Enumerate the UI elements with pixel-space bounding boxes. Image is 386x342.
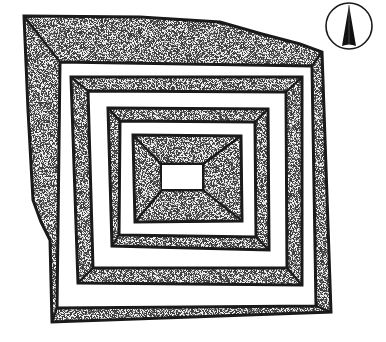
north-arrow-icon: [326, 3, 372, 49]
central-court: [162, 165, 202, 189]
terrace-plan-diagram: [0, 0, 386, 342]
